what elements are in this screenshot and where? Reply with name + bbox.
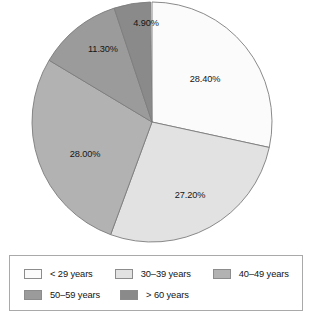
chart-legend: < 29 years30–39 years40–49 years50–59 ye… — [9, 255, 303, 311]
legend-swatch-icon — [24, 269, 42, 279]
pie-slice-value-label-1: 28.40% — [190, 74, 221, 84]
legend-item-label: 30–39 years — [141, 269, 191, 279]
legend-item[interactable]: 30–39 years — [115, 269, 191, 279]
legend-row-2: 50–59 years> 60 years — [10, 284, 302, 305]
pie-slice-value-label-2: 27.20% — [175, 190, 206, 200]
legend-row-1: < 29 years30–39 years40–49 years — [10, 263, 302, 284]
legend-item-label: 50–59 years — [50, 290, 100, 300]
pie-slice-value-label-4: 11.30% — [88, 44, 118, 54]
legend-item-label: > 60 years — [146, 290, 189, 300]
pie-chart-canvas: 28.40%27.20%28.00%11.30%4.90% — [0, 0, 314, 250]
legend-item[interactable]: > 60 years — [120, 290, 189, 300]
pie-chart-figure: 28.40%27.20%28.00%11.30%4.90% — [0, 0, 314, 250]
legend-item[interactable]: 50–59 years — [24, 290, 100, 300]
legend-swatch-icon — [115, 269, 133, 279]
legend-item-label: 40–49 years — [239, 269, 289, 279]
pie-slice-value-label-3: 28.00% — [70, 149, 101, 159]
legend-item[interactable]: 40–49 years — [213, 269, 289, 279]
pie-slices-group — [32, 2, 272, 242]
legend-swatch-icon — [120, 290, 138, 300]
legend-swatch-icon — [213, 269, 231, 279]
pie-slice-value-label-5: 4.90% — [133, 18, 159, 28]
legend-item-label: < 29 years — [50, 269, 93, 279]
legend-swatch-icon — [24, 290, 42, 300]
legend-item[interactable]: < 29 years — [24, 269, 93, 279]
